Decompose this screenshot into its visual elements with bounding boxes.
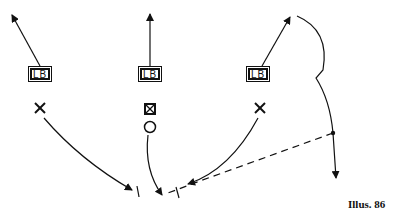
lb-right-route: [262, 17, 290, 66]
x-mark-right: [255, 103, 265, 113]
illustration-caption: Illus. 86: [348, 198, 385, 210]
lb-left-route: [12, 15, 40, 66]
left-x-route: [44, 118, 132, 190]
x-mark-left: [35, 103, 45, 113]
linebacker-left: LB: [30, 68, 50, 80]
play-diagram: [0, 0, 399, 211]
linebacker-right: LB: [248, 68, 268, 80]
ball-carrier-circle: [145, 122, 156, 133]
dashed-route: [168, 133, 333, 193]
circle-route: [147, 135, 162, 195]
linebacker-middle: LB: [140, 68, 160, 80]
right-curved-route: [297, 16, 336, 178]
right-x-route: [188, 118, 258, 184]
